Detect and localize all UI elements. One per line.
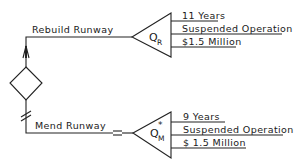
outcome-mend-duration: 9 Years: [183, 111, 220, 122]
outcome-mend-cost: $ 1.5 Million: [183, 137, 246, 148]
outcome-rebuild-duration: 11 Years: [182, 10, 225, 21]
branch-label-mend: Mend Runway: [35, 120, 106, 131]
outcome-mend-status: Suspended Operation: [183, 124, 294, 135]
outcome-rebuild-cost: $1.5 Million: [182, 36, 242, 47]
svg-text:M: M: [158, 134, 164, 143]
svg-text:*: *: [158, 120, 163, 130]
decision-diagram: Rebuild Runway Mend Runway Q R 11 Years …: [0, 0, 296, 167]
decision-diamond: [10, 67, 42, 100]
rebuild-branch-line: [26, 37, 132, 67]
outcome-rebuild-status: Suspended Operation: [182, 23, 293, 34]
svg-text:R: R: [157, 38, 162, 47]
branch-label-rebuild: Rebuild Runway: [32, 24, 113, 35]
